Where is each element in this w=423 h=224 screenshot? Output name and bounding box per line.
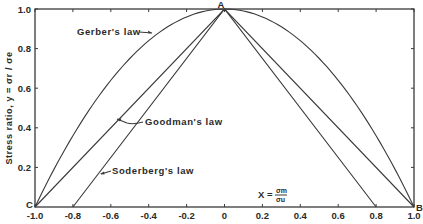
x-tick-label: -0.8: [65, 210, 81, 221]
stress-ratio-chart: -1.0-0.8-0.6-0.4-0.200.20.40.60.81.0 0.2…: [0, 0, 423, 224]
y-tick-label: 0.6: [18, 83, 31, 94]
y-tick-labels: 0.20.40.60.81.0: [18, 4, 32, 173]
axis-ticks: [35, 9, 414, 207]
soderberg-law-label: Soderberg's law: [112, 165, 194, 176]
point-label-a: A: [218, 0, 225, 10]
plot-frame: [35, 9, 414, 207]
gerber-law-label: Gerber's law: [77, 26, 141, 37]
y-tick-label: 0.2: [18, 162, 31, 173]
arrowhead-icon: [100, 172, 105, 175]
x-axis-label-denominator: σu: [276, 196, 285, 203]
soderberg-law-line: [73, 9, 376, 207]
x-axis-label-prefix: X =: [258, 189, 273, 200]
x-tick-labels: -1.0-0.8-0.6-0.4-0.200.20.40.60.81.0: [27, 210, 421, 221]
x-axis-label-numerator: σm: [276, 187, 287, 194]
x-axis-label: X = σm σu: [258, 187, 287, 203]
x-tick-label: -1.0: [27, 210, 43, 221]
point-label-c: C: [26, 199, 33, 210]
goodman-law-line: [35, 9, 414, 207]
point-label-b: B: [416, 202, 423, 213]
x-tick-label: -0.6: [103, 210, 119, 221]
x-tick-label: 0.4: [294, 210, 308, 221]
x-tick-label: 0: [222, 210, 227, 221]
goodman-law-label: Goodman's law: [145, 116, 223, 127]
y-tick-label: 1.0: [18, 4, 31, 15]
x-tick-label: 0.2: [256, 210, 269, 221]
plot-curves: [35, 9, 414, 207]
arrowhead-icon: [148, 31, 152, 34]
x-tick-label: 0.6: [332, 210, 345, 221]
x-tick-label: 0.8: [369, 210, 382, 221]
y-tick-label: 0.4: [18, 122, 32, 133]
x-tick-label: -0.2: [178, 210, 194, 221]
x-tick-label: -0.4: [141, 210, 158, 221]
y-axis-label: Stress ratio, y = σr / σe: [4, 51, 14, 164]
gerber-law-curve: [35, 9, 414, 207]
y-tick-label: 0.8: [18, 43, 31, 54]
